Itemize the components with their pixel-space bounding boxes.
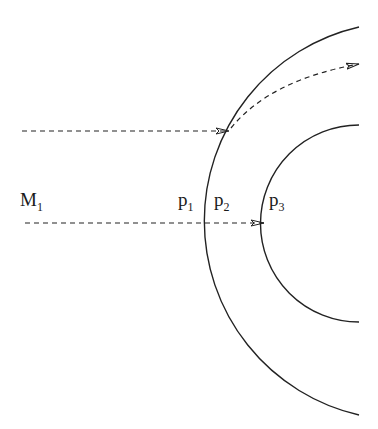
label-p2: p2 [214, 189, 230, 214]
label-m1: M1 [20, 189, 43, 214]
label-p3: p3 [269, 189, 285, 214]
label-p1: p1 [178, 189, 194, 214]
upper-ray-refracted [231, 64, 359, 128]
diagram-canvas: M1 p1 p2 p3 [0, 0, 378, 429]
outer-arc [204, 27, 359, 415]
inner-arc [261, 125, 360, 322]
